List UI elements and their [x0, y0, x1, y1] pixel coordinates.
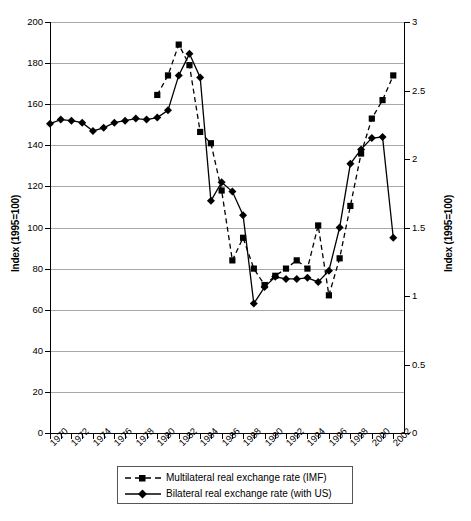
y-tick-right — [405, 159, 410, 160]
data-point-square — [379, 97, 385, 103]
gridline — [50, 186, 404, 187]
data-point-square — [272, 273, 278, 279]
y-tick-label-left: 140 — [0, 140, 43, 150]
data-point-diamond — [110, 119, 118, 127]
y-tick-right — [405, 91, 410, 92]
y-tick-label-left: 20 — [0, 387, 43, 397]
y-tick-right — [405, 228, 410, 229]
x-tick-label: 1974 — [91, 426, 113, 448]
legend-item-bilateral: Bilateral real exchange rate (with US) — [124, 486, 346, 502]
y-tick-label-left: 40 — [0, 346, 43, 356]
data-point-diamond — [228, 188, 236, 196]
x-tick-label: 1984 — [198, 426, 220, 448]
y-tick-right — [405, 22, 410, 23]
y-tick-right — [405, 296, 410, 297]
data-point-square — [294, 257, 300, 263]
data-point-diamond — [132, 115, 140, 123]
y-tick-label-left: 120 — [0, 181, 43, 191]
y-tick-label-left: 80 — [0, 264, 43, 274]
gridline — [50, 269, 404, 270]
gridline — [50, 351, 404, 352]
gridline — [50, 310, 404, 311]
data-point-square — [369, 115, 375, 121]
data-point-square — [337, 255, 343, 261]
y-axis-title-right: Index (1995=100) — [443, 169, 454, 299]
data-point-diamond — [100, 124, 108, 132]
data-point-diamond — [346, 160, 354, 168]
gridline — [50, 63, 404, 64]
series-line — [50, 54, 393, 304]
data-point-diamond — [314, 278, 322, 286]
y-tick-label-left: 60 — [0, 305, 43, 315]
y-tick-label-right: 3 — [412, 17, 442, 27]
data-point-diamond — [185, 50, 193, 58]
x-tick-label: 2002 — [391, 426, 413, 448]
data-point-diamond — [282, 275, 290, 283]
y-tick-label-right: 2.5 — [412, 86, 442, 96]
chart-figure: Index (1995=100) Index (1995=100) 200180… — [0, 0, 471, 521]
data-point-square — [390, 72, 396, 78]
data-point-diamond — [293, 275, 301, 283]
data-point-square — [165, 72, 171, 78]
legend-dashed-square-icon — [124, 471, 162, 485]
data-point-diamond — [261, 283, 269, 291]
data-point-diamond — [271, 273, 279, 281]
y-tick-label-right: 2 — [412, 154, 442, 164]
legend-label-multilateral: Multilateral real exchange rate (IMF) — [162, 472, 327, 484]
gridline — [50, 145, 404, 146]
gridline — [50, 104, 404, 105]
data-point-diamond — [368, 134, 376, 142]
data-point-square — [197, 129, 203, 135]
x-tick-label: 1990 — [263, 426, 285, 448]
data-point-diamond — [207, 197, 215, 205]
data-point-diamond — [389, 234, 397, 242]
gridline — [50, 22, 404, 23]
data-point-diamond — [239, 211, 247, 219]
data-point-diamond — [153, 114, 161, 122]
legend-label-bilateral: Bilateral real exchange rate (with US) — [162, 488, 332, 500]
data-point-diamond — [78, 119, 86, 127]
x-tick-label: 2000 — [370, 426, 392, 448]
data-point-diamond — [379, 133, 387, 141]
x-tick-label: 1998 — [348, 426, 370, 448]
data-point-diamond — [67, 117, 75, 125]
x-tick-label: 1988 — [241, 426, 263, 448]
x-tick-label: 1972 — [69, 426, 91, 448]
data-point-square — [229, 257, 235, 263]
y-tick-label-left: 180 — [0, 58, 43, 68]
x-tick-label: 1996 — [327, 426, 349, 448]
data-point-square — [347, 203, 353, 209]
y-tick-label-right: 1.5 — [412, 223, 442, 233]
x-tick-label: 1994 — [305, 426, 327, 448]
data-point-diamond — [303, 274, 311, 282]
x-tick-label: 1978 — [134, 426, 156, 448]
data-point-square — [176, 42, 182, 48]
legend-solid-diamond-icon — [124, 487, 162, 501]
y-tick-label-left: 160 — [0, 99, 43, 109]
chart-legend: Multilateral real exchange rate (IMF) Bi… — [117, 466, 353, 504]
gridline — [50, 392, 404, 393]
series-line — [157, 45, 393, 296]
y-axis-right — [404, 22, 405, 434]
y-tick-right — [405, 365, 410, 366]
y-tick-label-right: 0 — [412, 428, 442, 438]
x-tick-label: 1986 — [220, 426, 242, 448]
data-point-diamond — [196, 73, 204, 81]
data-point-diamond — [143, 116, 151, 124]
data-point-square — [261, 282, 267, 288]
legend-item-multilateral: Multilateral real exchange rate (IMF) — [124, 470, 346, 486]
y-axis-left — [50, 22, 51, 434]
data-point-diamond — [89, 127, 97, 135]
x-tick-label: 1970 — [48, 426, 70, 448]
x-tick-label: 1980 — [155, 426, 177, 448]
data-point-diamond — [218, 178, 226, 186]
data-point-diamond — [57, 116, 65, 124]
y-tick-label-left: 100 — [0, 223, 43, 233]
y-tick-label-left: 200 — [0, 17, 43, 27]
x-tick-label: 1992 — [284, 426, 306, 448]
x-tick-label: 1982 — [177, 426, 199, 448]
y-tick-label-left: 0 — [0, 428, 43, 438]
x-tick-label: 1976 — [112, 426, 134, 448]
data-point-square — [219, 187, 225, 193]
data-point-diamond — [250, 300, 258, 308]
